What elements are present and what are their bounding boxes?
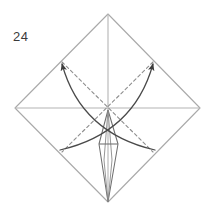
origami-figure-canvas: 24 <box>0 0 215 216</box>
origami-diagram: 24 <box>0 0 215 216</box>
step-number: 24 <box>13 29 28 44</box>
